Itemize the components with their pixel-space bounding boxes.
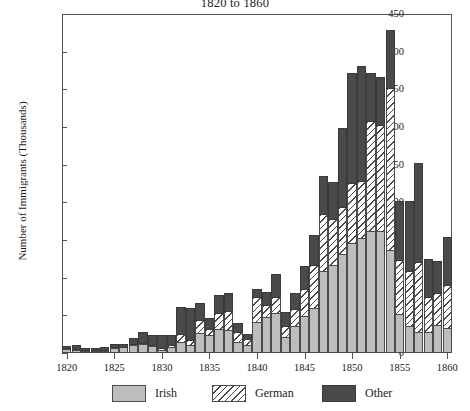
x-tick-mark [67,353,68,359]
bar-segment [357,66,366,182]
bar-segment [366,121,375,232]
bar-segment [81,348,90,351]
x-tick-mark [400,353,401,359]
bar-segment [376,231,385,353]
x-tick-mark [209,353,210,359]
bar-segment [138,344,147,353]
x-tick-label: 1835 [189,362,229,373]
bar-segment [300,316,309,353]
bar-segment [338,207,347,255]
bar-segment [271,313,280,353]
bar-segment [386,88,395,252]
bar-segment [424,332,433,353]
x-tick-label: 1855 [380,362,420,373]
bar-segment [290,293,299,310]
bar-segment [72,345,81,350]
bar-segment [233,323,242,334]
bar-segment [433,261,442,294]
legend-item-german: German [212,382,294,404]
bar-segment [205,329,214,337]
bar-segment [433,293,442,326]
legend-item-other: Other [322,382,392,404]
bar-segment [395,260,404,315]
bar-segment [357,238,366,354]
bar-segment [243,345,252,353]
bar-segment [328,265,337,353]
bar-segment [176,334,185,343]
bar-segment [271,297,280,314]
bar-segment [243,339,252,346]
x-tick-mark [257,353,258,359]
bar-segment [309,265,318,310]
x-tick-label: 1830 [142,362,182,373]
bar-segment [281,337,290,353]
bar-segment [195,303,204,321]
bar-segment [262,292,271,307]
bar-segment [443,285,452,329]
legend-label-irish: Irish [155,386,177,401]
bar-segment [347,73,356,184]
x-tick-label: 1840 [237,362,277,373]
bar-segment [309,308,318,353]
bar-segment [309,235,318,265]
x-tick-label: 1845 [285,362,325,373]
bar-segment [271,274,280,298]
bar-segment [214,313,223,330]
bar-segment [290,326,299,353]
bar-segment [224,330,233,353]
bar-segment [405,201,414,272]
bar-segment [281,312,290,327]
bar-segment [205,318,214,330]
bar-segment [347,183,356,244]
bar-segment [176,342,185,353]
bar-segment [167,335,176,346]
x-tick-mark [352,353,353,359]
legend-swatch-irish-icon [112,385,146,402]
bar-segment [243,334,252,340]
x-tick-mark [447,353,448,359]
bar-segment [157,335,166,350]
bar-segment [386,250,395,353]
x-tick-label: 1825 [94,362,134,373]
bar-segment [262,317,271,353]
bar-segment [424,259,433,298]
bar-segment [186,308,195,341]
bar-segment [281,326,290,338]
bar-segment [195,320,204,335]
bar-segment [433,325,442,353]
bar-segment [414,163,423,263]
bar-segment [366,73,375,122]
bar-segment [319,176,328,215]
legend-label-german: German [255,386,294,401]
bar-segment [405,271,414,326]
bar-segment [62,346,71,349]
bar-segment [224,293,233,313]
bar-segment [129,338,138,345]
bar-segment [176,307,185,335]
bar-segment [138,332,147,344]
bar-segment [252,297,261,323]
bar-segment [357,181,366,239]
bar-segment [129,345,138,353]
legend-swatch-other-icon [322,385,356,402]
bar-segment [414,332,423,353]
bar-segment [110,344,119,348]
bar-segment [214,329,223,353]
bar-segment [148,335,157,346]
legend-label-other: Other [365,386,392,401]
bar-segment [395,314,404,353]
bar-segment [119,344,128,348]
bar-segment [424,297,433,333]
bar-segment [347,243,356,353]
x-tick-mark [114,353,115,359]
bar-segment [290,309,299,327]
bar-segment [148,346,157,353]
bar-segment [386,30,395,88]
y-axis: Number of Immigrants (Thousands) [0,0,62,411]
bar-segment [252,322,261,353]
x-tick-label: 1860 [427,362,467,373]
bar-segment [224,311,233,331]
bar-segment [319,214,328,272]
bar-segment [395,201,404,262]
bar-segment [376,77,385,125]
